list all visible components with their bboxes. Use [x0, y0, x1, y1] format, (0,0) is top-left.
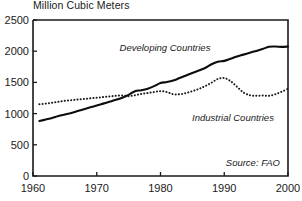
y-tick-label-1000: 1000	[5, 108, 29, 120]
series-label-developing-countries: Developing Countries	[120, 42, 211, 53]
y-tick-label-0: 0	[23, 170, 29, 182]
x-tick-label-1960: 1960	[21, 182, 45, 194]
y-tick-label-1500: 1500	[5, 76, 29, 88]
y-tick-label-2000: 2000	[5, 45, 29, 57]
source-attribution: Source: FAO	[226, 157, 281, 168]
y-tick-label-2500: 2500	[5, 14, 29, 26]
x-tick-label-1990: 1990	[212, 182, 236, 194]
chart-figure: Million Cubic Meters 0500100015002000250…	[0, 0, 302, 201]
x-tick-label-2000: 2000	[276, 182, 300, 194]
line-chart-plot: 05001000150020002500 1960197019801990200…	[0, 0, 302, 201]
x-axis-tick-labels: 19601970198019902000	[21, 182, 300, 194]
y-tick-label-500: 500	[11, 139, 29, 151]
x-tick-label-1980: 1980	[148, 182, 172, 194]
series-label-industrial-countries: Industrial Countries	[192, 112, 274, 123]
series-line-developing-countries	[39, 47, 288, 122]
y-axis-tick-labels: 05001000150020002500	[5, 14, 29, 182]
x-tick-label-1970: 1970	[85, 182, 109, 194]
